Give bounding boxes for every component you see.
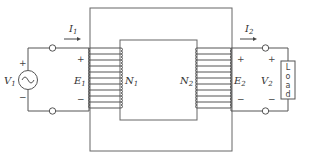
voltage-v1-label: V1: [4, 75, 16, 88]
emf-e1-label: E1: [73, 75, 86, 88]
ac-source-icon: [19, 71, 38, 90]
secondary-terminal-bottom: [262, 108, 268, 114]
secondary-winding: [196, 48, 232, 108]
transformer-diagram: L o a d I1 V1 + − + − E1 N1 N2 E2 + − V2…: [0, 0, 311, 158]
v2-plus-sign: +: [268, 54, 276, 64]
voltage-v2-label: V2: [261, 75, 273, 88]
transformer-core: [90, 8, 232, 151]
e1-minus-sign: −: [77, 94, 85, 104]
load-char-2: o: [286, 72, 291, 81]
e2-minus-sign: −: [237, 94, 245, 104]
load-char-3: a: [286, 81, 291, 90]
primary-winding: [89, 48, 123, 108]
e1-plus-sign: +: [77, 54, 85, 64]
core-outer: [90, 8, 232, 151]
e2-plus-sign: +: [237, 54, 245, 64]
arrow-right-icon: [64, 37, 81, 41]
primary-terminal-top: [49, 45, 55, 51]
v1-plus-sign: +: [19, 58, 27, 68]
load-char-4: d: [285, 90, 290, 99]
load-char-1: L: [286, 63, 291, 72]
turns-n1-label: N1: [124, 75, 138, 88]
v1-minus-sign: −: [19, 92, 27, 102]
v2-minus-sign: −: [268, 94, 276, 104]
current-i1-label: I1: [68, 23, 77, 36]
secondary-terminal-top: [262, 45, 268, 51]
turns-n2-label: N2: [179, 75, 194, 88]
emf-e2-label: E2: [233, 75, 246, 88]
current-i2-label: I2: [244, 23, 254, 36]
arrow-right-icon: [240, 37, 257, 41]
primary-terminal-bottom: [49, 108, 55, 114]
